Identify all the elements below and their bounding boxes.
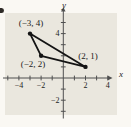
x-axis-letter: x bbox=[119, 70, 123, 79]
point-label-neg2-2: (−2, 2) bbox=[21, 60, 46, 69]
vertex-dot bbox=[39, 54, 43, 58]
coordinate-plane-figure: x y (−3, 4) (−2, 2) (2, 1) −4−2244−2 bbox=[0, 0, 131, 127]
y-tick-label: −2 bbox=[51, 97, 60, 105]
x-tick-label: 2 bbox=[84, 82, 88, 90]
x-tick-label: −2 bbox=[37, 82, 46, 90]
point-label-2-1: (2, 1) bbox=[78, 52, 98, 61]
point-label-neg3-4: (−3, 4) bbox=[19, 18, 44, 27]
x-tick-label: 4 bbox=[106, 82, 110, 90]
vertex-dot bbox=[83, 65, 87, 69]
y-tick-label: 4 bbox=[56, 30, 60, 38]
vertex-dot bbox=[28, 31, 32, 35]
x-tick-label: −4 bbox=[15, 82, 24, 90]
y-axis-letter: y bbox=[62, 0, 66, 9]
